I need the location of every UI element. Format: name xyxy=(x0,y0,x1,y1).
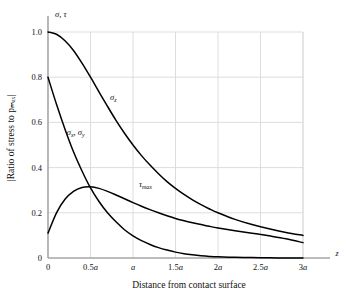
top-axis-label: σ, τ xyxy=(55,9,67,19)
x-axis-title: Distance from contact surface xyxy=(132,280,246,290)
y-tick-label: 0 xyxy=(38,253,42,263)
x-tick-label: 3a xyxy=(299,262,308,272)
x-tick-label: a xyxy=(131,262,135,272)
x-tick-label: 2.5a xyxy=(253,262,268,272)
y-tick-label: 0.4 xyxy=(31,163,42,173)
y-axis-title: |Ratio of stress to pₘₐₓ| xyxy=(6,95,16,182)
y-tick-label: 1.0 xyxy=(31,27,42,37)
stress-ratio-chart: 00.5aa1.5a2a2.5a3a 00.20.40.60.81.0 σ, τ… xyxy=(0,0,350,302)
y-tick-label: 0.2 xyxy=(31,208,42,218)
x-tick-label: 1.5a xyxy=(168,262,183,272)
y-tick-label: 0.6 xyxy=(31,117,42,127)
x-tick-label: 0.5a xyxy=(83,262,98,272)
chart-background xyxy=(0,0,350,302)
x-tick-label: 0 xyxy=(46,262,50,272)
y-tick-label: 0.8 xyxy=(31,72,42,82)
x-tick-label: 2a xyxy=(214,262,223,272)
